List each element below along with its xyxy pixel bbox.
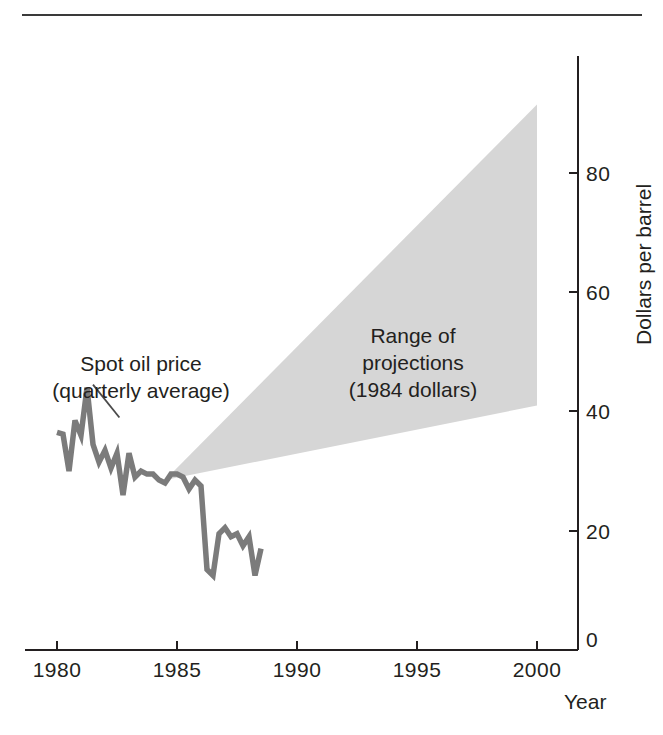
annotation-spot-oil-price: Spot oil price (quarterly average): [36, 350, 246, 404]
annotation-range-of-projections: Range of projections (1984 dollars): [318, 322, 508, 403]
x-tick-label-1980: 1980: [7, 658, 107, 682]
x-axis-title: Year: [564, 690, 606, 714]
x-tick-label-2000: 2000: [487, 658, 587, 682]
x-tick-label-1985: 1985: [127, 658, 227, 682]
y-tick-label-60: 60: [586, 281, 610, 305]
y-tick-label-20: 20: [586, 520, 610, 544]
annotation-spot-oil-price-line2: (quarterly average): [36, 377, 246, 404]
figure-container: 80 60 40 20 0 1980 1985 1990 1995 2000 Y…: [0, 0, 663, 735]
annotation-range-line3: (1984 dollars): [318, 376, 508, 403]
x-tick-label-1995: 1995: [367, 658, 467, 682]
annotation-spot-oil-price-line1: Spot oil price: [36, 350, 246, 377]
annotation-range-line2: projections: [318, 349, 508, 376]
y-tick-label-40: 40: [586, 400, 610, 424]
y-tick-label-0: 0: [586, 628, 598, 652]
y-axis-title: Dollars per barrel: [632, 184, 656, 345]
annotation-range-line1: Range of: [318, 322, 508, 349]
y-tick-label-80: 80: [586, 162, 610, 186]
x-tick-label-1990: 1990: [247, 658, 347, 682]
range-of-projections-band: [165, 104, 537, 480]
